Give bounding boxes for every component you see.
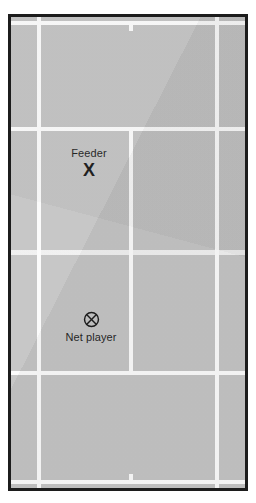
court-frame: Feeder X Net player [8, 14, 248, 491]
net-player-label: Net player [65, 331, 116, 344]
marker-feeder: Feeder X [48, 147, 130, 179]
x-marker-icon: X [83, 161, 95, 179]
baseline-top-line [11, 21, 245, 25]
baseline-bottom-line [11, 480, 245, 484]
marker-net-player: Net player [41, 311, 141, 344]
singles-sideline-right-line [215, 17, 219, 488]
court-diagram: Feeder X Net player [0, 0, 256, 503]
net-line [11, 250, 245, 255]
center-mark-bottom [129, 474, 133, 482]
service-line-top [11, 127, 245, 131]
singles-sideline-left-line [37, 17, 41, 488]
service-line-bottom [11, 371, 245, 375]
circled-x-marker-icon [83, 311, 100, 328]
feeder-label: Feeder [71, 147, 106, 160]
court-surface: Feeder X Net player [11, 17, 245, 488]
center-mark-top [129, 23, 133, 31]
